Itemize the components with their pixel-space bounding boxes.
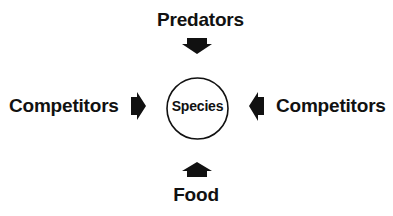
arrow-left-icon xyxy=(249,92,264,121)
predators-label: Predators xyxy=(157,10,237,29)
arrow-up-icon xyxy=(182,162,212,177)
food-label: Food xyxy=(170,185,222,204)
species-label: Species xyxy=(167,99,228,113)
arrow-down-icon xyxy=(182,38,212,54)
competitors-right-label: Competitors xyxy=(276,96,386,115)
arrow-right-icon xyxy=(131,92,146,120)
competitors-left-label: Competitors xyxy=(9,96,119,115)
